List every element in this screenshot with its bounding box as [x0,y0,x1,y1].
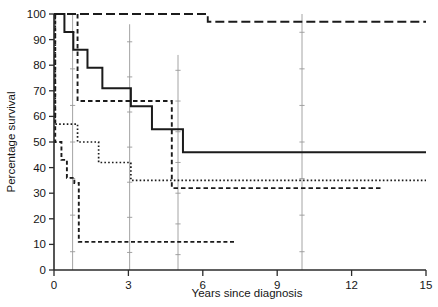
y-tick-label: 60 [33,110,46,122]
survival-chart: 0102030405060708090100 03691215 Years si… [0,0,438,307]
y-axis-title: Percentage survival [5,92,17,193]
chart-page: 0102030405060708090100 03691215 Years si… [0,0,438,307]
survival-curve-group-1-solid [54,14,426,152]
x-tick-label: 3 [125,279,131,291]
y-tick-layer: 0102030405060708090100 [27,8,54,276]
y-tick-label: 50 [33,136,46,148]
y-tick-label: 90 [33,34,46,46]
survival-curve-layer [54,14,426,242]
x-tick-label: 15 [420,279,433,291]
axis-layer [54,14,426,270]
x-axis-title: Years since diagnosis [192,287,303,299]
censoring-tick-layer [70,14,305,270]
survival-curve-group-5-short-dash-lower [55,14,236,242]
y-tick-label: 10 [33,238,46,250]
y-tick-label: 70 [33,85,46,97]
survival-curve-group-4-short-dash-upper [78,14,382,188]
y-tick-label: 40 [33,162,46,174]
survival-curve-group-2-long-dash [54,14,426,22]
y-tick-label: 20 [33,213,46,225]
survival-curve-group-3-dotted [55,14,426,180]
y-tick-label: 30 [33,187,46,199]
x-tick-label: 0 [51,279,57,291]
y-tick-label: 100 [27,8,46,20]
x-tick-label: 12 [345,279,358,291]
y-tick-label: 0 [40,264,46,276]
y-tick-label: 80 [33,59,46,71]
